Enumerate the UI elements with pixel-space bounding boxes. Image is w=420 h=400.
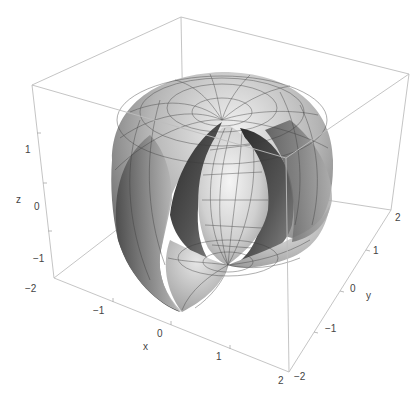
y-tick-label: 1	[373, 245, 379, 256]
y-axis-label: y	[366, 290, 371, 301]
y-tick-label: −2	[294, 371, 306, 382]
y-tick-label: 0	[350, 283, 356, 294]
x-tick-label: 0	[157, 328, 163, 339]
x-tick-label: 1	[216, 351, 222, 362]
z-axis-label: z	[16, 194, 21, 205]
x-tick-label: −2	[25, 283, 37, 294]
surface-plot-3d[interactable]: 1 0 −1 z −2 −1 0 1 2 x −2 −1 0 1 2 y	[0, 0, 420, 400]
z-tick-label: −1	[33, 253, 45, 264]
x-axis-label: x	[143, 341, 148, 352]
z-tick-label: 1	[25, 144, 31, 155]
x-tick-label: 2	[278, 375, 284, 386]
z-tick-label: 0	[34, 201, 40, 212]
x-axis: −2 −1 0 1 2 x	[25, 283, 284, 386]
x-tick-label: −1	[93, 305, 105, 316]
y-tick-label: 2	[395, 212, 401, 223]
surface	[111, 72, 333, 312]
y-tick-label: −1	[325, 323, 337, 334]
